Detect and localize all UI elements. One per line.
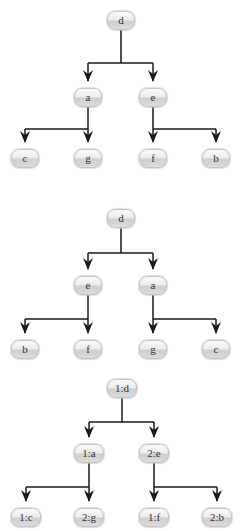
tree-3-leaf-4: 2:b [202, 508, 232, 527]
tree-3-edges [0, 0, 245, 531]
tree-3-node-right: 2:e [139, 444, 169, 463]
tree-3-leaf-3: 1:f [139, 508, 169, 527]
tree-3-node-root: 1:d [107, 379, 137, 398]
tree-3-leaf-1: 1:c [11, 508, 41, 527]
tree-3: 1:d 1:a 2:e 1:c 2:g 1:f 2:b [0, 0, 245, 531]
tree-3-node-left: 1:a [74, 444, 104, 463]
tree-3-leaf-2: 2:g [74, 508, 104, 527]
